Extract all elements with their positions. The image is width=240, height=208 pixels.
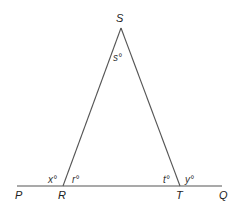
label-point-t: T xyxy=(176,189,184,201)
geometry-diagram: S P R T Q s° x° r° t° y° xyxy=(0,0,240,208)
label-point-s: S xyxy=(116,12,124,24)
label-point-p: P xyxy=(15,189,23,201)
segment-st xyxy=(121,28,180,186)
label-angle-s: s° xyxy=(113,52,122,63)
label-point-r: R xyxy=(58,189,66,201)
label-angle-x: x° xyxy=(47,174,57,185)
label-angle-y: y° xyxy=(184,174,194,185)
label-angle-t: t° xyxy=(163,174,170,185)
label-point-q: Q xyxy=(219,189,228,201)
label-angle-r: r° xyxy=(72,174,79,185)
